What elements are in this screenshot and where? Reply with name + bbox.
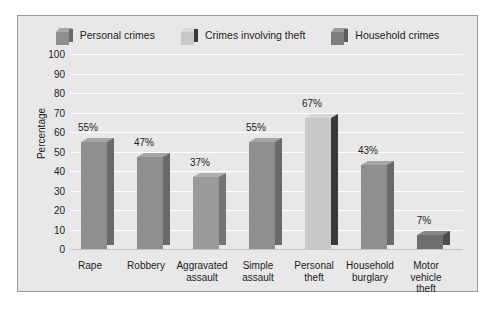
x-axis-category-line: Rape xyxy=(78,260,102,271)
bar[interactable] xyxy=(193,177,219,249)
x-axis-category-label: Rape xyxy=(62,260,118,272)
bar-front-face xyxy=(305,118,331,249)
x-axis-category-label: Simpleassault xyxy=(230,260,286,283)
x-axis-category-line: Motor xyxy=(413,260,439,271)
chart-panel: Personal crimesCrimes involving theftHou… xyxy=(17,15,478,292)
y-axis-title: Percentage xyxy=(36,89,47,179)
x-axis-category-line: Aggravated xyxy=(176,260,227,271)
bar-slot: 7%Motorvehicletheft xyxy=(407,54,463,249)
bar[interactable] xyxy=(137,157,163,249)
bar-front-face xyxy=(193,177,219,249)
bar-side-face xyxy=(331,114,338,245)
bar-side-face xyxy=(219,173,226,245)
bar-slot: 43%Householdburglary xyxy=(351,54,407,249)
y-axis-tick-label: 100 xyxy=(48,49,65,60)
bar-series: 55%Rape47%Robbery37%Aggravatedassault55%… xyxy=(71,54,463,249)
bar[interactable] xyxy=(249,142,275,249)
y-axis-tick-label: 70 xyxy=(54,107,65,118)
x-axis-category-label: Aggravatedassault xyxy=(174,260,230,283)
bar-front-face xyxy=(417,235,443,249)
axis-baseline xyxy=(71,249,463,250)
y-axis-tick-label: 60 xyxy=(54,127,65,138)
bar-side-face xyxy=(163,153,170,245)
bar-value-label: 55% xyxy=(67,122,109,133)
x-axis-category-line: assault xyxy=(186,272,218,283)
x-axis-category-line: Personal xyxy=(294,260,333,271)
y-axis-tick-label: 50 xyxy=(54,146,65,157)
bar-value-label: 37% xyxy=(179,157,221,168)
bar-value-label: 43% xyxy=(347,145,389,156)
bar-front-face xyxy=(137,157,163,249)
x-axis-category-line: burglary xyxy=(352,272,388,283)
y-axis-tick-label: 20 xyxy=(54,205,65,216)
bar-side-face xyxy=(275,138,282,245)
bar-slot: 47%Robbery xyxy=(127,54,183,249)
bar[interactable] xyxy=(361,165,387,249)
bar-front-face xyxy=(361,165,387,249)
bar[interactable] xyxy=(305,118,331,249)
y-axis-tick-label: 0 xyxy=(59,244,65,255)
x-axis-category-line: Robbery xyxy=(127,260,165,271)
y-axis-tick-label: 80 xyxy=(54,88,65,99)
x-axis-category-line: Simple xyxy=(243,260,274,271)
bar[interactable] xyxy=(417,235,443,249)
x-axis-category-label: Motorvehicletheft xyxy=(398,260,454,295)
y-axis-tick-label: 90 xyxy=(54,68,65,79)
x-axis-category-label: Robbery xyxy=(118,260,174,272)
x-axis-category-line: theft xyxy=(416,283,435,294)
x-axis-category-line: Household xyxy=(346,260,394,271)
y-axis-tick-label: 40 xyxy=(54,166,65,177)
bar-front-face xyxy=(81,142,107,249)
y-axis-tick-label: 10 xyxy=(54,224,65,235)
y-axis-tick-label: 30 xyxy=(54,185,65,196)
bar-slot: 55%Simpleassault xyxy=(239,54,295,249)
x-axis-category-line: vehicle xyxy=(410,272,441,283)
bar-value-label: 67% xyxy=(291,98,333,109)
bar-side-face xyxy=(107,138,114,245)
bar-slot: 67%Personaltheft xyxy=(295,54,351,249)
bar-front-face xyxy=(249,142,275,249)
bar-slot: 55%Rape xyxy=(71,54,127,249)
x-axis-category-line: theft xyxy=(304,272,323,283)
bar-value-label: 7% xyxy=(403,215,445,226)
plot-area: 1009080706050403020100 55%Rape47%Robbery… xyxy=(71,54,463,249)
bar-value-label: 55% xyxy=(235,122,277,133)
x-axis-category-label: Householdburglary xyxy=(342,260,398,283)
bar-side-face xyxy=(387,161,394,245)
x-axis-category-label: Personaltheft xyxy=(286,260,342,283)
bar[interactable] xyxy=(81,142,107,249)
x-axis-category-line: assault xyxy=(242,272,274,283)
bar-slot: 37%Aggravatedassault xyxy=(183,54,239,249)
bar-value-label: 47% xyxy=(123,137,165,148)
plot-wrapper: Percentage 1009080706050403020100 55%Rap… xyxy=(18,16,479,293)
